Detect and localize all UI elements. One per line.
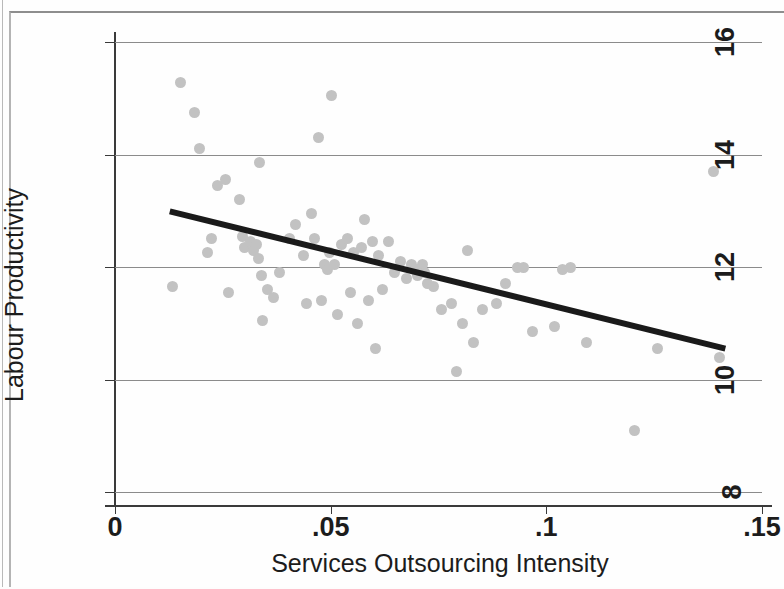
x-tick-label: 0	[107, 512, 122, 543]
y-tick	[105, 492, 115, 493]
y-tick	[105, 267, 115, 268]
y-tick-label: 10	[709, 364, 740, 394]
gridline	[115, 492, 762, 493]
y-tick	[105, 42, 115, 43]
y-tick	[105, 155, 115, 156]
x-axis-line	[105, 505, 772, 507]
x-axis-title: Services Outsourcing Intensity	[271, 549, 609, 578]
y-axis-title: Labour Productivity	[0, 188, 29, 402]
chart-page: Labour Productivity Services Outsourcing…	[0, 0, 784, 589]
y-tick-label: 12	[709, 252, 740, 282]
x-tick-label: .15	[743, 512, 781, 543]
x-tick-label: .05	[312, 512, 350, 543]
regression-line	[115, 42, 762, 492]
x-tick-label: .1	[535, 512, 558, 543]
y-tick-label: 14	[709, 139, 740, 169]
y-tick-label: 16	[709, 27, 740, 57]
y-tick	[105, 380, 115, 381]
plot-area: 8101214160.05.1.15	[115, 42, 762, 492]
y-tick-label: 8	[717, 484, 748, 499]
